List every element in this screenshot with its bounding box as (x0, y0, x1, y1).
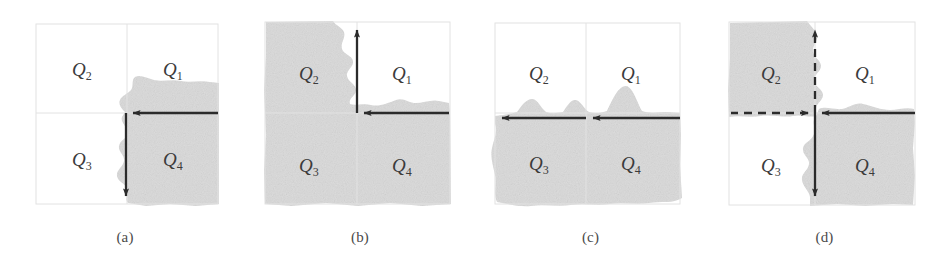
panel-b-caption: (b) (240, 229, 480, 246)
panel-d-label-q1: Q1 (855, 63, 875, 87)
panel-c-caption: (c) (473, 229, 708, 246)
figure-panel-row: Q2 Q1 Q3 Q4 (a) (0, 0, 946, 264)
panel-c: Q2 Q1 Q3 Q4 (c) (473, 0, 708, 264)
panel-b-diagram: Q2 Q1 Q3 Q4 (240, 0, 480, 215)
panel-a: Q2 Q1 Q3 Q4 (a) (0, 0, 250, 264)
panel-d-label-q3: Q3 (761, 155, 781, 179)
panel-d-diagram: Q2 Q1 Q3 Q4 (703, 0, 946, 215)
panel-c-diagram: Q2 Q1 Q3 Q4 (473, 0, 708, 215)
panel-a-diagram: Q2 Q1 Q3 Q4 (0, 0, 250, 215)
panel-c-label-q1: Q1 (621, 63, 641, 87)
panel-c-label-q2: Q2 (529, 63, 549, 87)
panel-b-label-q1: Q1 (392, 63, 412, 87)
panel-a-caption: (a) (0, 229, 250, 246)
panel-a-label-q2: Q2 (72, 59, 92, 83)
shaded-region-c (491, 86, 682, 206)
panel-d: Q2 Q1 Q3 Q4 (d) (703, 0, 946, 264)
shaded-region-a (117, 76, 219, 206)
panel-d-caption: (d) (703, 229, 946, 246)
panel-a-label-q1: Q1 (163, 59, 183, 83)
shaded-region-d-q2 (728, 21, 823, 117)
panel-b: Q2 Q1 Q3 Q4 (b) (240, 0, 480, 264)
panel-a-label-q3: Q3 (72, 149, 92, 173)
